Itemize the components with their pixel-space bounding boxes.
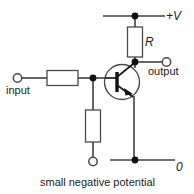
base-node-dot [90,75,97,82]
input-label: input [6,85,30,96]
collector-node-dot [132,59,139,66]
resistor-base-series-body [47,71,78,86]
bias-potential-label: small negative potential [40,177,155,188]
output-label: output [148,66,179,77]
supply-voltage-label: +V [166,10,181,22]
schematic-canvas [0,0,194,194]
supply-rail-node-dot [132,13,139,20]
transistor-envelope-circle [105,65,140,100]
ground-label: 0 [176,161,183,173]
bias-terminal-circle[interactable] [89,157,97,165]
input-terminal-circle[interactable] [13,74,21,82]
resistor-base-pulldown-body [86,110,101,142]
resistor-collector-body [128,27,143,57]
circuit-diagram: +V R output input 0 small negative poten… [0,0,194,194]
resistor-r-label: R [145,36,154,48]
ground-rail-node-dot [132,157,139,164]
